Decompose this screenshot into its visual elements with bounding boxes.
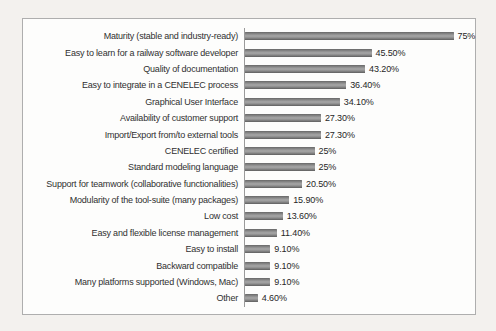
category-label: Many platforms supported (Windows, Mac) bbox=[23, 277, 244, 287]
value-label: 9.10% bbox=[274, 277, 299, 287]
chart-row: Standard modeling language25% bbox=[23, 159, 471, 175]
category-label: Availability of customer support bbox=[23, 113, 244, 123]
chart-row: Support for teamwork (collaborative func… bbox=[23, 176, 471, 192]
bar bbox=[245, 196, 289, 204]
chart-row: CENELEC certified25% bbox=[23, 143, 471, 159]
category-label: Import/Export from/to external tools bbox=[23, 130, 244, 140]
bar bbox=[245, 262, 270, 270]
bar bbox=[245, 212, 283, 220]
bar-area: 13.60% bbox=[244, 208, 471, 224]
value-label: 4.60% bbox=[262, 293, 287, 303]
bar-area: 9.10% bbox=[244, 241, 471, 257]
bar-area: 20.50% bbox=[244, 176, 471, 192]
bar-area: 11.40% bbox=[244, 225, 471, 241]
bar bbox=[245, 278, 270, 286]
bar-area: 36.40% bbox=[244, 77, 471, 93]
category-label: Low cost bbox=[23, 211, 244, 221]
bar-area: 4.60% bbox=[244, 290, 471, 306]
value-label: 34.10% bbox=[344, 97, 374, 107]
bar bbox=[245, 180, 302, 188]
category-label: Modularity of the tool-suite (many packa… bbox=[23, 195, 244, 205]
category-label: CENELEC certified bbox=[23, 146, 244, 156]
bar-area: 75% bbox=[244, 28, 475, 44]
category-label: Easy to learn for a railway software dev… bbox=[23, 48, 244, 58]
value-label: 13.60% bbox=[287, 211, 317, 221]
bar-area: 43.20% bbox=[244, 61, 471, 77]
value-label: 20.50% bbox=[306, 179, 336, 189]
chart-row: Backward compatible9.10% bbox=[23, 257, 471, 273]
bar-area: 25% bbox=[244, 143, 471, 159]
chart-row: Easy to integrate in a CENELEC process36… bbox=[23, 77, 471, 93]
category-label: Quality of documentation bbox=[23, 64, 244, 74]
bar bbox=[245, 229, 277, 237]
bar bbox=[245, 81, 346, 89]
value-label: 15.90% bbox=[293, 195, 323, 205]
bar bbox=[245, 65, 365, 73]
chart-row: Low cost13.60% bbox=[23, 208, 471, 224]
bar bbox=[245, 245, 270, 253]
value-label: 27.30% bbox=[325, 130, 355, 140]
chart-row: Graphical User Interface34.10% bbox=[23, 94, 471, 110]
bar-area: 34.10% bbox=[244, 94, 471, 110]
value-label: 9.10% bbox=[274, 244, 299, 254]
bar bbox=[245, 98, 340, 106]
bar bbox=[245, 294, 258, 302]
bar bbox=[245, 131, 321, 139]
chart-row: Easy and flexible license management11.4… bbox=[23, 225, 471, 241]
bar-area: 45.50% bbox=[244, 44, 471, 60]
bar-area: 9.10% bbox=[244, 257, 471, 273]
chart-row: Other4.60% bbox=[23, 290, 471, 306]
category-label: Support for teamwork (collaborative func… bbox=[23, 179, 244, 189]
bar bbox=[245, 49, 372, 57]
category-label: Graphical User Interface bbox=[23, 97, 244, 107]
value-label: 45.50% bbox=[376, 48, 406, 58]
bar bbox=[245, 32, 454, 40]
value-label: 75% bbox=[458, 31, 476, 41]
category-label: Easy to integrate in a CENELEC process bbox=[23, 80, 244, 90]
category-label: Easy and flexible license management bbox=[23, 228, 244, 238]
value-label: 9.10% bbox=[274, 261, 299, 271]
value-label: 43.20% bbox=[369, 64, 399, 74]
chart-row: Easy to install9.10% bbox=[23, 241, 471, 257]
category-label: Backward compatible bbox=[23, 261, 244, 271]
category-label: Other bbox=[23, 293, 244, 303]
chart-row: Import/Export from/to external tools27.3… bbox=[23, 126, 471, 142]
chart-row: Many platforms supported (Windows, Mac)9… bbox=[23, 274, 471, 290]
chart-row: Maturity (stable and industry-ready)75% bbox=[23, 28, 471, 44]
bar-area: 25% bbox=[244, 159, 471, 175]
bar bbox=[245, 147, 315, 155]
value-label: 25% bbox=[319, 146, 337, 156]
chart-row: Quality of documentation43.20% bbox=[23, 61, 471, 77]
chart-row: Modularity of the tool-suite (many packa… bbox=[23, 192, 471, 208]
value-label: 11.40% bbox=[281, 228, 310, 238]
bar-area: 27.30% bbox=[244, 126, 471, 142]
bar bbox=[245, 163, 315, 171]
category-label: Easy to install bbox=[23, 244, 244, 254]
value-label: 25% bbox=[319, 162, 337, 172]
bar-area: 9.10% bbox=[244, 274, 471, 290]
plot-area: Maturity (stable and industry-ready)75%E… bbox=[23, 28, 471, 308]
chart-row: Easy to learn for a railway software dev… bbox=[23, 44, 471, 60]
bar-area: 27.30% bbox=[244, 110, 471, 126]
page: { "page": { "background_color": "#f3f1ee… bbox=[0, 0, 496, 331]
bar-chart-frame: Maturity (stable and industry-ready)75%E… bbox=[22, 18, 476, 315]
value-label: 36.40% bbox=[350, 80, 380, 90]
bar bbox=[245, 114, 321, 122]
bar-area: 15.90% bbox=[244, 192, 471, 208]
category-label: Maturity (stable and industry-ready) bbox=[23, 31, 244, 41]
chart-row: Availability of customer support27.30% bbox=[23, 110, 471, 126]
value-label: 27.30% bbox=[325, 113, 355, 123]
category-label: Standard modeling language bbox=[23, 162, 244, 172]
